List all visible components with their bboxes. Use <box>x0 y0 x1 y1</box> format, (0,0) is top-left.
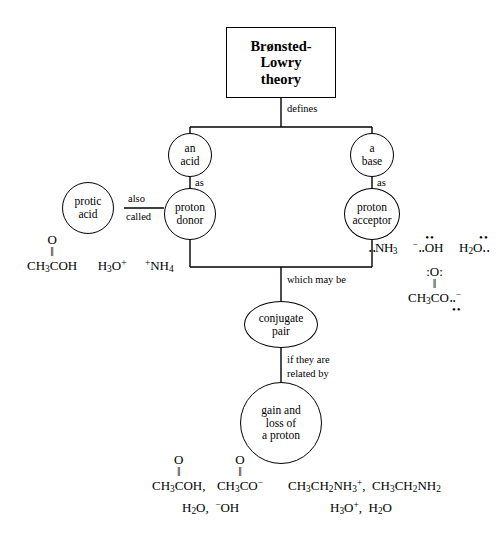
carbonyl-group: :O: ‖ <box>408 265 461 290</box>
edge-label-if-they-are: if they are <box>287 354 330 366</box>
formula-conjugate-pair-acetic: O ‖ CH3COH, O ‖ CH3CO− <box>152 478 263 496</box>
formula-acetate-conj: O ‖ CH3CO− <box>217 478 263 496</box>
formula-acetic-acid-conj: O ‖ CH3COH, <box>152 478 205 496</box>
edge-label-defines: defines <box>287 103 317 115</box>
formula-base-examples: ․․NH3 •• −․․OH •• H2O․․ <box>368 240 489 258</box>
node-an-acid: an acid <box>168 133 212 177</box>
double-bond-icon: ‖ <box>217 465 263 478</box>
formula-water: •• H2O․․ <box>459 240 489 258</box>
carbonyl-group: O ‖ <box>152 453 205 478</box>
node-label: proton acceptor <box>353 201 392 227</box>
concept-map-canvas: Brønsted- Lowry theory defines an acid a… <box>0 0 503 540</box>
node-proton-donor: proton donor <box>164 188 216 240</box>
edge-label-called: called <box>126 211 151 223</box>
node-a-base: a base <box>350 133 394 177</box>
lone-pair-dots: •• <box>478 235 489 241</box>
double-bond-icon: ‖ <box>152 465 205 478</box>
formula-acid-examples: O ‖ CH3COH H3O+ +NH4 <box>27 258 174 276</box>
lone-pair-dots-below: •• <box>452 303 462 316</box>
formula-acetic-acid: O ‖ CH3COH <box>27 258 77 276</box>
formula-conjugate-pair-hydronium: H3O+, H2O <box>330 500 392 518</box>
node-conjugate-pair: conjugate pair <box>244 301 318 348</box>
double-bond-icon: ‖ <box>408 277 461 290</box>
formula-conjugate-pair-water: H2O, −OH <box>182 500 239 518</box>
node-label: conjugate pair <box>259 312 304 338</box>
node-label: an acid <box>180 142 199 168</box>
node-label: gain and loss of a proton <box>261 404 300 443</box>
edge-label-related-by: related by <box>287 368 329 380</box>
node-label: proton donor <box>175 201 205 227</box>
node-protic-acid: protic acid <box>62 182 114 234</box>
node-label: a base <box>362 142 382 168</box>
edge-label-as-right: as <box>377 177 386 189</box>
carbonyl-group: O ‖ <box>217 453 263 478</box>
edge-label-which-may-be: which may be <box>287 274 346 286</box>
lone-pair-dots: •• <box>421 235 438 241</box>
formula-hydroxide: •• −․․OH <box>412 240 443 256</box>
carbonyl-group: O ‖ <box>27 233 77 258</box>
node-gain-and-loss-of-a-proton: gain and loss of a proton <box>240 382 322 464</box>
edge-label-also: also <box>128 193 145 205</box>
formula-ammonium: +NH4 <box>145 258 174 273</box>
formula-conjugate-pair-ethylamine: CH3CH2NH3+, CH3CH2NH2 <box>288 478 441 496</box>
double-bond-icon: ‖ <box>27 245 77 258</box>
node-proton-acceptor: proton acceptor <box>344 188 400 240</box>
edge-label-as-left: as <box>195 177 204 189</box>
formula-acetate: :O: ‖ CH3CO․․− •• <box>408 290 461 308</box>
formula-hydronium: H3O+ <box>98 258 127 273</box>
node-label: Brønsted- Lowry theory <box>250 38 311 87</box>
node-bronsted-lowry-theory: Brønsted- Lowry theory <box>226 27 336 98</box>
node-label: protic acid <box>75 195 102 221</box>
formula-ammonia: ․․NH3 <box>368 240 397 255</box>
